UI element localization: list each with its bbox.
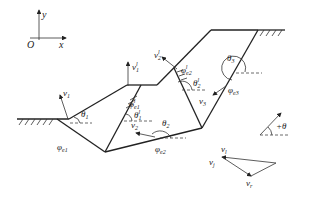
- theta1-arc: [74, 117, 80, 123]
- origin-label: O: [27, 39, 34, 50]
- theta1-label: θ1: [81, 109, 88, 120]
- v1l-label: v1l: [132, 61, 139, 73]
- theta1l-label: θ1l: [134, 109, 141, 121]
- left-ground-hatch: [19, 119, 53, 125]
- v1-label: v1: [63, 88, 70, 99]
- coordinate-axes: y x O: [27, 9, 66, 50]
- theta3-label: θ3: [227, 53, 234, 64]
- v2l-arrow: [162, 57, 177, 69]
- right-ground-hatch: [260, 30, 282, 36]
- slope-upper-segment: [157, 30, 211, 85]
- theta2-label: θ2: [162, 118, 169, 129]
- phi-e3-label: φe3: [228, 85, 239, 96]
- vj-vector: [251, 163, 276, 176]
- vj-label: vj: [209, 157, 215, 168]
- slope-lower-segment: [69, 85, 127, 119]
- sign-convention-arc: [268, 127, 272, 135]
- vl-label: vl: [221, 144, 227, 155]
- phi-e1-label: φe1: [57, 142, 68, 153]
- x-axis-label: x: [58, 39, 64, 50]
- theta2l-label: θ2l: [193, 77, 200, 89]
- phi-e2l-label: φe2l: [181, 64, 192, 76]
- y-axis-label: y: [41, 9, 47, 20]
- vr-label: vr: [246, 178, 253, 189]
- slip-surface-3: [202, 30, 258, 128]
- ground-surface: [17, 30, 285, 125]
- phi-e2-label: φe2: [155, 144, 166, 155]
- v2-label: v2: [131, 120, 138, 131]
- v2l-label: v2l: [154, 49, 161, 61]
- plus-theta-label: +θ: [276, 121, 287, 131]
- slip-surface-2: [105, 128, 202, 152]
- v3-label: v3: [199, 96, 206, 107]
- velocity-triangle: vl vj vr: [209, 144, 276, 189]
- slope-failure-mechanism-diagram: y x O v1 θ1 φe1 v1l: [0, 0, 310, 202]
